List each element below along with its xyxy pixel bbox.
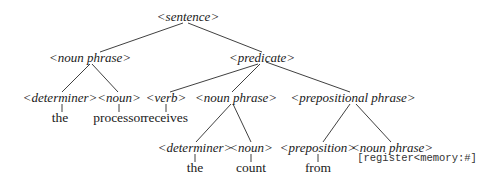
edge-np1-to-det1	[62, 64, 90, 92]
node-noun-phrase-object: <noun phrase>	[195, 91, 277, 105]
edge-sentence-to-predicate	[188, 23, 262, 52]
leaf-from: from	[305, 161, 331, 175]
node-noun-object: <noun>	[229, 141, 273, 155]
edge-np2-to-det2	[196, 104, 231, 142]
node-predicate: <predicate>	[229, 51, 295, 65]
leaf-processor: processor	[93, 111, 145, 125]
edge-np1-to-noun1	[92, 64, 118, 92]
node-determiner-subject: <determiner>	[23, 91, 98, 105]
edge-np2-to-noun2	[233, 104, 251, 142]
parse-tree-diagram: <sentence> <noun phrase> <predicate> <de…	[0, 0, 480, 187]
node-noun-subject: <noun>	[97, 91, 141, 105]
node-verb: <verb>	[146, 91, 187, 105]
edge-pp-to-np3	[356, 104, 391, 142]
node-determiner-object: <determiner>	[158, 141, 233, 155]
edge-predicate-to-pp	[266, 62, 350, 92]
node-prepositional-phrase: <prepositional phrase>	[290, 91, 415, 105]
edge-pp-to-prep	[323, 104, 350, 142]
leaf-the-object: the	[187, 161, 204, 175]
leaf-the-subject: the	[52, 111, 69, 125]
edge-sentence-to-np1	[100, 23, 183, 52]
leaf-receives: receives	[144, 111, 188, 125]
node-preposition: <preposition>	[280, 141, 356, 155]
annotation-register-memory: [register<memory:#]	[357, 152, 477, 164]
leaf-count: count	[236, 161, 266, 175]
node-sentence: <sentence>	[157, 10, 219, 24]
node-noun-phrase-subject: <noun phrase>	[49, 51, 131, 65]
edge-predicate-to-verb	[170, 64, 258, 92]
